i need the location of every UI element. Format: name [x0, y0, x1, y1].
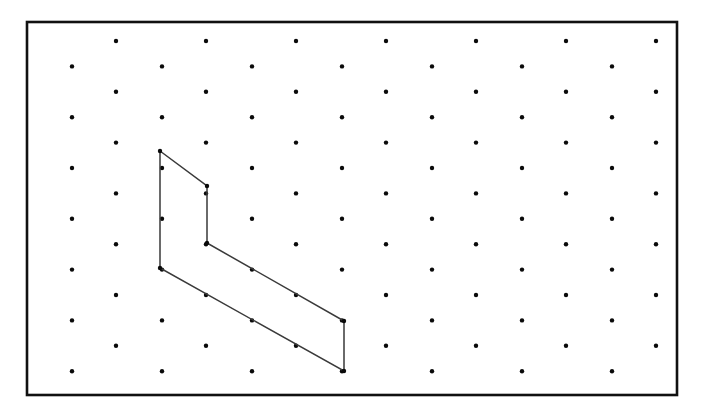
- lattice-dot: [430, 115, 434, 119]
- lattice-dot: [160, 369, 164, 373]
- lattice-dot: [430, 64, 434, 68]
- lattice-dot: [610, 64, 614, 68]
- lattice-dot: [474, 140, 478, 144]
- lattice-dot: [340, 64, 344, 68]
- lattice-dot: [384, 344, 388, 348]
- lattice-dot: [520, 369, 524, 373]
- lattice-dot: [294, 242, 298, 246]
- lattice-dot: [610, 217, 614, 221]
- lattice-dot: [340, 217, 344, 221]
- polygon-vertex-f[interactable]: [158, 266, 162, 270]
- lattice-dot: [610, 166, 614, 170]
- lattice-dot: [114, 140, 118, 144]
- lattice-dot: [70, 267, 74, 271]
- lattice-dot: [654, 293, 658, 297]
- lattice-dot: [384, 242, 388, 246]
- lattice-dot: [520, 64, 524, 68]
- lattice-dot: [610, 369, 614, 373]
- lattice-dot: [250, 64, 254, 68]
- lattice-dot: [430, 318, 434, 322]
- lattice-dot: [204, 90, 208, 94]
- lattice-dot: [520, 267, 524, 271]
- polygon-vertex-a[interactable]: [158, 149, 162, 153]
- lattice-dot: [294, 39, 298, 43]
- figure-background: [0, 0, 704, 413]
- lattice-dot: [70, 166, 74, 170]
- lattice-dot: [114, 90, 118, 94]
- lattice-dot: [430, 267, 434, 271]
- lattice-dot: [430, 166, 434, 170]
- lattice-dot: [114, 344, 118, 348]
- lattice-dot: [520, 166, 524, 170]
- lattice-dot: [160, 115, 164, 119]
- polygon-vertex-d[interactable]: [342, 319, 346, 323]
- lattice-dot: [474, 90, 478, 94]
- lattice-dot: [114, 293, 118, 297]
- lattice-dot: [70, 369, 74, 373]
- polygon-vertex-e[interactable]: [342, 369, 346, 373]
- lattice-dot: [654, 191, 658, 195]
- lattice-dot: [70, 318, 74, 322]
- lattice-dot: [250, 369, 254, 373]
- lattice-dot: [384, 293, 388, 297]
- lattice-dot: [114, 191, 118, 195]
- polygon-vertex-c[interactable]: [205, 241, 209, 245]
- lattice-dot: [610, 318, 614, 322]
- lattice-dot: [474, 242, 478, 246]
- lattice-dot: [610, 115, 614, 119]
- lattice-dot: [250, 115, 254, 119]
- dot-lattice-figure: [0, 0, 704, 413]
- lattice-dot: [520, 318, 524, 322]
- lattice-dot: [564, 191, 568, 195]
- lattice-dot: [564, 344, 568, 348]
- lattice-dot: [294, 140, 298, 144]
- lattice-dot: [250, 166, 254, 170]
- lattice-dot: [204, 39, 208, 43]
- polygon-vertex-b[interactable]: [205, 184, 209, 188]
- lattice-dot: [384, 191, 388, 195]
- lattice-dot: [70, 115, 74, 119]
- lattice-dot: [520, 115, 524, 119]
- lattice-dot: [564, 242, 568, 246]
- lattice-dot: [384, 90, 388, 94]
- lattice-dot: [654, 39, 658, 43]
- lattice-dot: [204, 344, 208, 348]
- lattice-dot: [474, 191, 478, 195]
- lattice-dot: [340, 115, 344, 119]
- lattice-dot: [520, 217, 524, 221]
- lattice-dot: [610, 267, 614, 271]
- lattice-dot: [294, 191, 298, 195]
- figure-canvas: [0, 0, 704, 413]
- lattice-dot: [564, 293, 568, 297]
- lattice-dot: [160, 64, 164, 68]
- lattice-dot: [474, 344, 478, 348]
- lattice-dot: [384, 39, 388, 43]
- lattice-dot: [430, 217, 434, 221]
- lattice-dot: [654, 90, 658, 94]
- lattice-dot: [114, 39, 118, 43]
- lattice-dot: [474, 39, 478, 43]
- lattice-dot: [340, 166, 344, 170]
- lattice-dot: [564, 39, 568, 43]
- lattice-dot: [204, 140, 208, 144]
- lattice-dot: [70, 64, 74, 68]
- lattice-dot: [294, 90, 298, 94]
- lattice-dot: [654, 242, 658, 246]
- lattice-dot: [70, 217, 74, 221]
- lattice-dot: [250, 217, 254, 221]
- lattice-dot: [114, 242, 118, 246]
- lattice-dot: [564, 140, 568, 144]
- lattice-dot: [384, 140, 388, 144]
- lattice-dot: [654, 140, 658, 144]
- lattice-dot: [160, 318, 164, 322]
- lattice-dot: [430, 369, 434, 373]
- lattice-dot: [474, 293, 478, 297]
- lattice-dot: [340, 267, 344, 271]
- lattice-dot: [654, 344, 658, 348]
- lattice-dot: [564, 90, 568, 94]
